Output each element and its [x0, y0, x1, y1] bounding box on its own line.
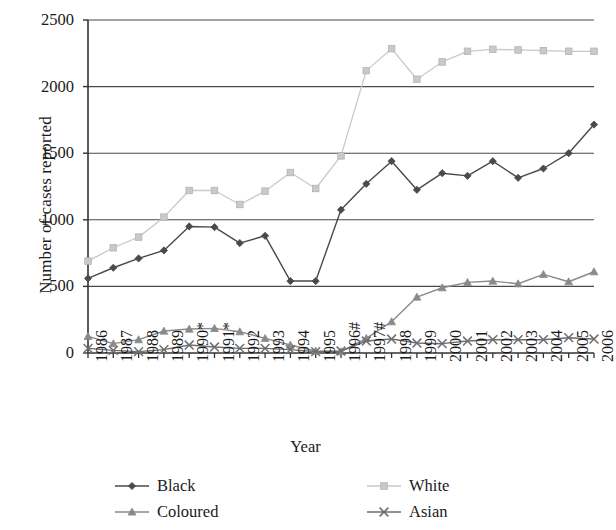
x-axis-title: Year	[0, 437, 611, 457]
data-point-diamond	[128, 483, 135, 490]
diamond-marker-icon	[114, 479, 150, 493]
x-tick-label: 2005	[575, 330, 591, 362]
data-point-diamond	[135, 255, 142, 262]
x-tick-label: 1991*	[221, 322, 237, 362]
data-point-square	[262, 188, 269, 195]
data-point-square	[312, 185, 319, 192]
data-point-square	[186, 187, 193, 194]
triangle-marker-icon	[114, 505, 150, 519]
data-point-diamond	[211, 224, 218, 231]
y-tick-label: 0	[66, 345, 74, 362]
x-tick-label: 2003	[524, 330, 540, 362]
data-point-triangle	[84, 332, 92, 339]
data-point-diamond	[287, 277, 294, 284]
data-point-square	[540, 47, 547, 54]
x-tick-label: 1997#	[372, 322, 388, 362]
chart-legend: BlackColouredWhiteAsian	[0, 478, 611, 530]
data-point-square	[135, 234, 142, 241]
x-tick-label: 1993	[271, 330, 287, 362]
legend-label: Black	[157, 478, 196, 495]
x-tick-label: 1986	[94, 330, 110, 362]
data-point-square	[161, 214, 168, 221]
square-marker-icon	[366, 479, 402, 493]
data-point-diamond	[110, 264, 117, 271]
legend-item-coloured[interactable]: Coloured	[114, 504, 218, 521]
x-tick-label: 1996#	[347, 322, 363, 362]
legend-label: Coloured	[157, 504, 218, 521]
data-point-diamond	[464, 172, 471, 179]
x-tick-label: 2002	[499, 330, 515, 362]
y-axis-tick-labels: 25002000150010005000	[0, 0, 84, 360]
data-point-diamond	[515, 174, 522, 181]
x-tick-label: 2000	[448, 330, 464, 362]
data-point-square	[287, 169, 294, 176]
data-point-square	[591, 48, 598, 55]
y-tick-label: 1500	[41, 145, 74, 162]
data-point-triangle	[590, 268, 598, 275]
legend-label: Asian	[409, 504, 448, 521]
y-tick-label: 2500	[41, 12, 74, 29]
data-point-square	[464, 48, 471, 55]
data-point-diamond	[236, 240, 243, 247]
data-point-square	[363, 67, 370, 74]
x-tick-label: 2004	[549, 330, 565, 362]
legend-item-white[interactable]: White	[366, 478, 449, 495]
series-white	[85, 45, 598, 264]
x-tick-label: 1988	[145, 330, 161, 362]
data-point-diamond	[84, 275, 91, 282]
data-point-square	[211, 187, 218, 194]
data-point-square	[338, 153, 345, 160]
data-point-square	[439, 59, 446, 66]
series-black	[84, 121, 597, 285]
data-point-diamond	[312, 277, 319, 284]
x-tick-label: 1994	[296, 330, 312, 362]
data-point-square	[381, 483, 388, 490]
legend-item-asian[interactable]: Asian	[366, 504, 448, 521]
x-tick-label: 1998	[398, 330, 414, 362]
legend-item-black[interactable]: Black	[114, 478, 196, 495]
x-tick-label: 1995	[322, 330, 338, 362]
data-point-square	[565, 48, 572, 55]
data-point-square	[237, 201, 244, 208]
x-tick-label: 2001	[474, 330, 490, 362]
x-tick-label: 2006	[600, 330, 616, 362]
series-line	[88, 125, 594, 282]
cross-marker-icon	[366, 505, 402, 519]
data-point-square	[110, 244, 117, 251]
x-tick-label: 1999	[423, 330, 439, 362]
data-point-diamond	[489, 158, 496, 165]
data-point-triangle	[540, 271, 548, 278]
data-point-diamond	[540, 165, 547, 172]
data-point-square	[388, 45, 395, 52]
data-point-square	[515, 47, 522, 54]
x-tick-label: 1987	[119, 330, 135, 362]
legend-label: White	[409, 478, 449, 495]
x-tick-label: 1992	[246, 330, 262, 362]
x-tick-label: 1990*	[195, 322, 211, 362]
x-tick-label: 1989	[170, 330, 186, 362]
data-point-diamond	[262, 232, 269, 239]
y-tick-label: 1000	[41, 212, 74, 229]
data-point-square	[414, 76, 421, 83]
y-tick-label: 2000	[41, 79, 74, 96]
data-point-diamond	[439, 170, 446, 177]
y-tick-label: 500	[49, 278, 74, 295]
data-point-square	[85, 258, 92, 265]
data-point-square	[490, 46, 497, 53]
